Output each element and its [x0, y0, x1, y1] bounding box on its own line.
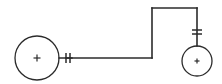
wire-group [66, 8, 197, 58]
schematic-diagram [0, 0, 222, 84]
left-node-plus-icon [34, 55, 41, 62]
right-node [182, 46, 212, 76]
right-node-plus-icon [195, 59, 200, 64]
schematic-canvas [0, 0, 222, 84]
left-node [15, 36, 59, 80]
